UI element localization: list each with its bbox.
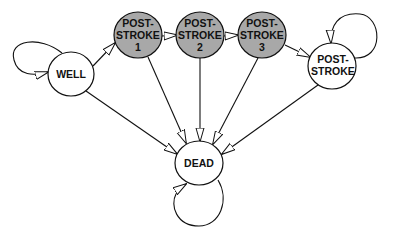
node-label-line-3: 2 <box>197 41 203 53</box>
node-post-stroke-1: POST- STROKE 1 <box>114 12 162 58</box>
edge-ps1-to-ps2 <box>162 35 177 36</box>
node-label-line-2: STROKE <box>240 29 284 41</box>
edge-well-to-dead <box>86 91 177 154</box>
node-label-line-2: STROKE <box>178 29 222 41</box>
node-dead: DEAD <box>175 141 223 185</box>
node-label: WELL <box>56 68 86 80</box>
node-label-line-2: STROKE <box>311 65 355 77</box>
node-post-stroke: POST- STROKE <box>308 43 356 89</box>
edge-dead-self-loop <box>174 180 223 226</box>
node-label-line-2: STROKE <box>116 29 160 41</box>
node-post-stroke-2: POST- STROKE 2 <box>176 12 224 58</box>
node-well: WELL <box>48 52 94 96</box>
edge-well-to-ps1 <box>93 43 115 66</box>
node-label-line-1: POST- <box>184 17 216 29</box>
edge-ps3-to-dead <box>213 58 258 144</box>
state-transition-diagram: WELL POST- STROKE 1 POST- STROKE 2 POST-… <box>0 0 398 231</box>
node-label-line-3: 3 <box>259 41 265 53</box>
node-label-line-1: POST- <box>122 17 154 29</box>
edge-ps3-to-poststroke <box>285 45 310 57</box>
edge-ps1-to-dead <box>148 57 186 143</box>
node-label-line-3: 1 <box>135 41 141 53</box>
edge-ps2-to-ps3 <box>223 35 238 36</box>
node-post-stroke-3: POST- STROKE 3 <box>238 12 286 58</box>
node-label-line-1: POST- <box>246 17 278 29</box>
node-label-line-1: POST- <box>317 53 349 65</box>
edge-poststroke-to-dead <box>222 85 318 154</box>
node-label: DEAD <box>184 157 214 169</box>
